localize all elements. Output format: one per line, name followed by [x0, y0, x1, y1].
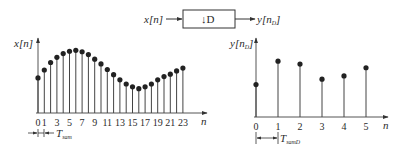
- sample-dot: [130, 84, 135, 89]
- tick-label: 5: [364, 121, 369, 132]
- tick-label: 17: [140, 117, 150, 128]
- downsampler-label: ↓D: [201, 13, 215, 25]
- period-label: TsamD: [280, 132, 301, 145]
- sample-dot: [86, 52, 91, 57]
- tick-label: 21: [165, 117, 175, 128]
- block-diagram: x[n] ↓D y[nD]: [143, 10, 280, 28]
- sample-dot: [161, 74, 166, 79]
- sample-dot: [168, 72, 173, 77]
- input-signal-label: x[n]: [143, 13, 163, 25]
- sample-dot: [35, 75, 40, 80]
- sample-dot: [174, 68, 179, 73]
- sample-dot: [180, 66, 185, 71]
- sample-dot: [253, 82, 258, 87]
- sample-dot: [111, 72, 116, 77]
- sample-dot: [117, 77, 122, 82]
- tick-label: 1: [42, 117, 47, 128]
- tick-label: 2: [298, 121, 303, 132]
- y-axis-label: y[nD]: [229, 37, 253, 50]
- sample-dot: [136, 86, 141, 91]
- output-stem-plot: y[nD] n 012345 TsamD: [229, 37, 389, 145]
- sample-dot: [124, 81, 129, 86]
- x-axis-label: n: [383, 119, 389, 131]
- sample-dot: [98, 61, 103, 66]
- tick-label: 13: [115, 117, 125, 128]
- input-stem-plot: x[n] n 01357911131517192123 Tsam: [13, 37, 207, 140]
- sample-dot: [48, 60, 53, 65]
- downsampling-diagram: x[n] ↓D y[nD] x[n] n 0135791113151719212…: [0, 0, 403, 156]
- sample-dot: [67, 49, 72, 54]
- tick-label: 9: [92, 117, 97, 128]
- sample-dot: [149, 81, 154, 86]
- sample-dot: [363, 65, 368, 70]
- y-axis-label: x[n]: [13, 37, 33, 49]
- period-label: Tsam: [56, 127, 72, 140]
- tick-label: 1: [276, 121, 281, 132]
- sample-dot: [80, 49, 85, 54]
- tick-label: 4: [342, 121, 347, 132]
- x-axis-label: n: [201, 115, 207, 127]
- tick-label: 23: [178, 117, 188, 128]
- sample-dot: [54, 55, 59, 60]
- tick-label: 15: [128, 117, 138, 128]
- tick-label: 0: [36, 117, 41, 128]
- sample-dot: [297, 61, 302, 66]
- sample-dot: [275, 59, 280, 64]
- sample-dot: [155, 77, 160, 82]
- tick-label: 11: [102, 117, 112, 128]
- tick-label: 7: [80, 117, 85, 128]
- sample-dot: [61, 51, 66, 56]
- tick-label: 0: [254, 121, 259, 132]
- sample-dot: [341, 73, 346, 78]
- sample-dot: [319, 77, 324, 82]
- tick-label: 3: [320, 121, 325, 132]
- tick-label: 19: [153, 117, 163, 128]
- sample-dot: [42, 67, 47, 72]
- sample-dot: [73, 48, 78, 53]
- output-signal-label: y[nD]: [256, 13, 280, 26]
- sample-dot: [105, 67, 110, 72]
- sample-dot: [92, 57, 97, 62]
- sample-dot: [143, 84, 148, 89]
- tick-label: 5: [67, 117, 72, 128]
